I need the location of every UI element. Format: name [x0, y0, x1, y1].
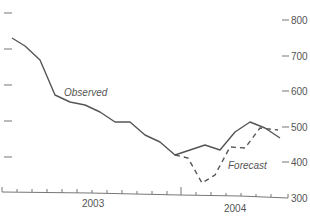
x-axis: [2, 187, 288, 198]
x-tick-2004: 2004: [224, 203, 247, 214]
y-tick-600: 600: [291, 86, 308, 97]
left-ticks: [4, 13, 12, 157]
y-tick-400: 400: [291, 157, 308, 168]
forecast-line: [175, 128, 278, 183]
y-axis-right: 800 700 600 500 400 300: [282, 15, 308, 204]
y-tick-500: 500: [291, 122, 308, 133]
line-chart: 800 700 600 500 400 300: [0, 0, 310, 220]
y-tick-300: 300: [291, 193, 308, 204]
observed-label: Observed: [64, 87, 108, 98]
y-tick-800: 800: [291, 15, 308, 26]
x-tick-2003: 2003: [82, 198, 105, 209]
observed-line: [12, 38, 280, 155]
y-tick-700: 700: [291, 51, 308, 62]
forecast-label: Forecast: [228, 160, 268, 171]
